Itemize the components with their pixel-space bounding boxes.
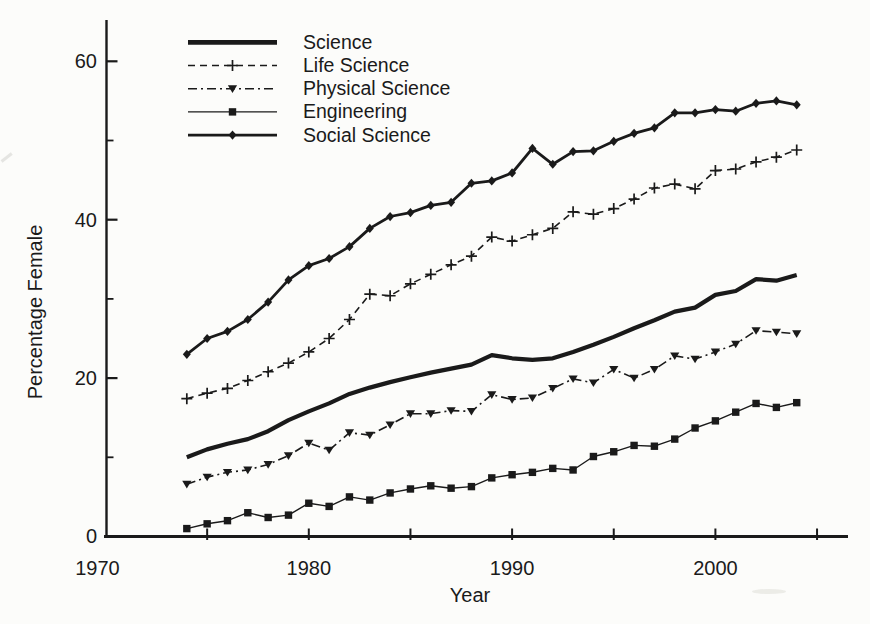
- square-marker: [407, 485, 414, 492]
- series-physical-science: [182, 327, 801, 488]
- diamond-marker: [589, 146, 597, 155]
- legend-label-science: Science: [303, 31, 372, 53]
- plus-marker: [385, 290, 396, 301]
- series-line-social-science: [187, 101, 797, 354]
- plus-marker: [263, 366, 274, 377]
- square-marker: [447, 484, 454, 491]
- square-marker: [529, 469, 536, 476]
- plus-marker: [466, 251, 477, 262]
- square-marker: [386, 489, 393, 496]
- square-marker: [244, 509, 251, 516]
- plus-marker: [751, 156, 762, 167]
- square-marker: [305, 500, 312, 507]
- y-tick-label-20: 20: [75, 367, 97, 389]
- triangle-down-marker: [325, 447, 334, 455]
- plus-marker: [669, 179, 680, 190]
- diamond-marker: [772, 96, 780, 105]
- x-axis-title: Year: [450, 584, 491, 606]
- diamond-marker: [752, 99, 760, 108]
- line-chart: 19701980199020000204060 ScienceLife Scie…: [0, 0, 870, 624]
- plus-marker: [649, 183, 660, 194]
- triangle-down-marker: [386, 421, 395, 429]
- plus-marker: [527, 229, 538, 240]
- plus-marker: [608, 203, 619, 214]
- diamond-marker: [630, 129, 638, 138]
- triangle-down-marker: [182, 481, 191, 489]
- series-markers-engineering: [183, 399, 800, 532]
- x-tick-label-1990: 1990: [490, 557, 535, 579]
- triangle-down-marker: [629, 375, 638, 383]
- triangle-down-marker: [772, 329, 781, 337]
- square-marker: [366, 496, 373, 503]
- triangle-down-marker: [467, 408, 476, 416]
- plus-marker: [283, 358, 294, 369]
- legend-item-social-science: Social Science: [188, 124, 431, 146]
- square-marker: [610, 448, 617, 455]
- series-engineering: [183, 399, 800, 532]
- legend-item-life-science: Life Science: [188, 54, 409, 76]
- plus-marker: [446, 259, 457, 270]
- diamond-icon: [229, 131, 237, 140]
- triangle-down-marker: [792, 330, 801, 338]
- square-marker: [630, 442, 637, 449]
- triangle-down-marker: [548, 385, 557, 393]
- square-marker: [569, 466, 576, 473]
- diamond-marker: [488, 176, 496, 185]
- legend-item-engineering: Engineering: [188, 100, 407, 122]
- series-line-engineering: [187, 403, 797, 529]
- y-tick-label-40: 40: [75, 209, 97, 231]
- series-markers-physical-science: [182, 327, 801, 488]
- plus-marker: [771, 152, 782, 163]
- triangle-down-marker: [589, 379, 598, 387]
- legend: ScienceLife SciencePhysical ScienceEngin…: [188, 31, 450, 146]
- series-line-science: [187, 275, 797, 457]
- legend-item-physical-science: Physical Science: [188, 77, 450, 99]
- series-line-life-science: [187, 150, 797, 399]
- diamond-marker: [793, 100, 801, 109]
- legend-label-engineering: Engineering: [303, 100, 407, 122]
- plus-marker: [405, 278, 416, 289]
- series-science: [187, 275, 797, 457]
- x-tick-label-1970: 1970: [75, 557, 120, 579]
- y-tick-label-60: 60: [75, 50, 97, 72]
- square-marker: [508, 471, 515, 478]
- square-marker: [752, 400, 759, 407]
- legend-item-science: Science: [188, 31, 372, 53]
- legend-label-physical-science: Physical Science: [303, 77, 450, 99]
- plus-marker: [242, 375, 253, 386]
- square-marker: [691, 424, 698, 431]
- square-marker: [203, 520, 210, 527]
- triangle-down-marker: [365, 432, 374, 440]
- diamond-marker: [691, 108, 699, 117]
- diamond-marker: [711, 105, 719, 114]
- square-icon: [229, 108, 236, 115]
- diamond-marker: [610, 137, 618, 146]
- plot-series: [181, 96, 802, 532]
- square-marker: [732, 408, 739, 415]
- plus-marker: [181, 393, 192, 404]
- x-tick-label-1980: 1980: [287, 557, 332, 579]
- square-marker: [773, 404, 780, 411]
- plus-marker: [588, 209, 599, 220]
- square-marker: [224, 517, 231, 524]
- y-axis-title: Percentage Female: [24, 225, 46, 400]
- square-marker: [590, 453, 597, 460]
- legend-label-social-science: Social Science: [303, 124, 431, 146]
- plus-marker: [730, 164, 741, 175]
- x-tick-label-2000: 2000: [693, 557, 738, 579]
- triangle-down-marker: [690, 356, 699, 364]
- plus-marker: [344, 314, 355, 325]
- square-marker: [793, 399, 800, 406]
- square-marker: [285, 511, 292, 518]
- plus-icon: [227, 60, 238, 71]
- legend-label-life-science: Life Science: [303, 54, 409, 76]
- square-marker: [325, 503, 332, 510]
- square-marker: [468, 483, 475, 490]
- plus-marker: [303, 346, 314, 357]
- triangle-down-marker: [203, 474, 212, 482]
- square-marker: [427, 482, 434, 489]
- plus-marker: [222, 383, 233, 394]
- triangle-down-marker: [650, 366, 659, 374]
- diamond-marker: [732, 107, 740, 116]
- square-marker: [712, 417, 719, 424]
